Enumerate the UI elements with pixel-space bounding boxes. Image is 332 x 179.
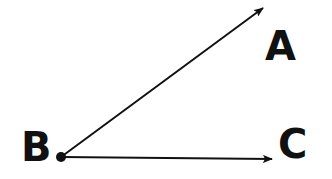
ray-ba: [61, 8, 263, 157]
ray-bc: [61, 157, 272, 159]
point-label-c: C: [278, 124, 307, 164]
vertex-b-dot: [56, 152, 66, 162]
angle-diagram: A B C: [0, 0, 332, 179]
point-label-a: A: [265, 26, 296, 66]
point-label-b: B: [21, 127, 52, 167]
